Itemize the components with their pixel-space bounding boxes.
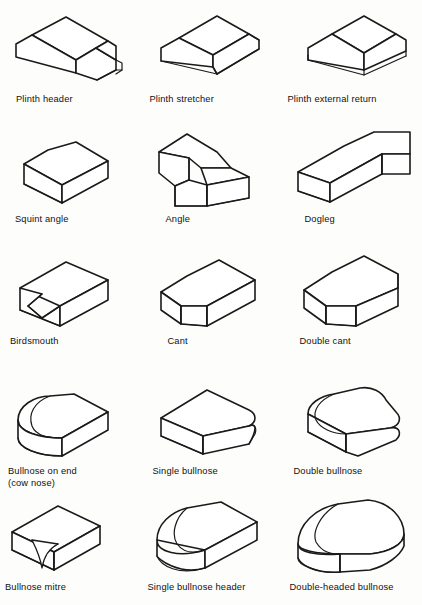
figure-caption: Bullnose mitre: [5, 582, 66, 594]
figure-caption: Plinth external return: [288, 94, 377, 106]
brick-shapes-plate: Plinth header Plinth stretcher: [0, 0, 422, 605]
figure-dogleg: Dogleg: [281, 120, 422, 240]
figure-single-bullnose: Single bullnose: [140, 370, 281, 490]
double-headed-bullnose-brick-icon: [286, 496, 418, 582]
figure-angle: Angle: [140, 120, 281, 240]
figure-caption: Double cant: [300, 336, 351, 348]
caption-wrap: Double-headed bullnose: [282, 582, 422, 594]
figure-caption: Angle: [166, 214, 191, 226]
figure-caption: Single bullnose: [153, 466, 218, 478]
figure-caption: Dogleg: [305, 214, 335, 226]
caption-wrap: Plinth header: [0, 94, 148, 106]
figure-caption: Single bullnose header: [148, 582, 246, 594]
figure-double-cant: Double cant: [281, 240, 422, 370]
figure-caption: Double-headed bullnose: [290, 582, 394, 594]
figure-caption: Birdsmouth: [10, 336, 59, 348]
caption-wrap: Single bullnose: [137, 466, 285, 478]
dogleg-brick-icon: [286, 128, 418, 214]
cant-brick-icon: [145, 250, 277, 336]
plinth-external-return-brick-icon: [286, 8, 418, 94]
single-bullnose-header-brick-icon: [145, 496, 277, 582]
figure-double-bullnose: Double bullnose: [281, 370, 422, 490]
caption-wrap: Bullnose on end (cow nose): [0, 466, 140, 489]
caption-wrap: Plinth stretcher: [140, 94, 282, 106]
plinth-header-brick-icon: [4, 8, 136, 94]
figure-cant: Cant: [140, 240, 281, 370]
figure-squint-angle: Squint angle: [0, 120, 140, 240]
figure-caption: Plinth header: [16, 94, 73, 106]
squint-angle-brick-icon: [4, 128, 136, 214]
figure-caption: Cant: [168, 336, 188, 348]
birdsmouth-brick-icon: [4, 250, 136, 336]
caption-wrap: Bullnose mitre: [3, 582, 137, 594]
figure-bullnose-mitre: Bullnose mitre: [0, 490, 140, 605]
double-bullnose-brick-icon: [286, 380, 418, 466]
figure-birdsmouth: Birdsmouth: [0, 240, 140, 370]
figure-caption: Bullnose on end (cow nose): [8, 466, 77, 489]
caption-wrap: Dogleg: [267, 214, 422, 226]
single-bullnose-brick-icon: [145, 380, 277, 466]
bullnose-on-end-brick-icon: [4, 380, 136, 466]
caption-wrap: Plinth external return: [284, 94, 420, 106]
figure-caption: Double bullnose: [294, 466, 363, 478]
figure-single-bullnose-header: Single bullnose header: [140, 490, 281, 605]
figure-plinth-stretcher: Plinth stretcher: [140, 0, 281, 120]
double-cant-brick-icon: [286, 250, 418, 336]
caption-wrap: Single bullnose header: [142, 582, 280, 594]
figure-caption: Squint angle: [15, 214, 69, 226]
brick-figure-grid: Plinth header Plinth stretcher: [0, 0, 422, 605]
caption-wrap: Double bullnose: [278, 466, 422, 478]
figure-plinth-header: Plinth header: [0, 0, 140, 120]
figure-caption: Plinth stretcher: [150, 94, 214, 106]
plinth-stretcher-brick-icon: [145, 8, 277, 94]
figure-plinth-external-return: Plinth external return: [281, 0, 422, 120]
figure-bullnose-on-end: Bullnose on end (cow nose): [0, 370, 140, 490]
figure-double-headed-bullnose: Double-headed bullnose: [281, 490, 422, 605]
caption-wrap: Double cant: [272, 336, 422, 348]
angle-brick-icon: [145, 128, 277, 214]
bullnose-mitre-brick-icon: [4, 496, 136, 582]
